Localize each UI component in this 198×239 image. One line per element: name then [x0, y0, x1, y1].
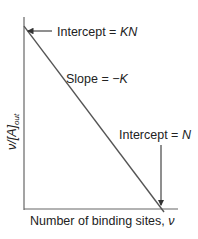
y-intercept-label: Intercept = KN	[57, 25, 138, 39]
x-intercept-label: Intercept = N	[119, 128, 192, 142]
y-axis-label: ν/[A]out	[5, 113, 21, 150]
x-axis-label: Number of binding sites, ν	[30, 214, 175, 228]
scatchard-diagram: Intercept = KN Slope = −K Intercept = N …	[0, 0, 198, 239]
series-line	[24, 26, 164, 212]
slope-label: Slope = −K	[66, 72, 129, 86]
